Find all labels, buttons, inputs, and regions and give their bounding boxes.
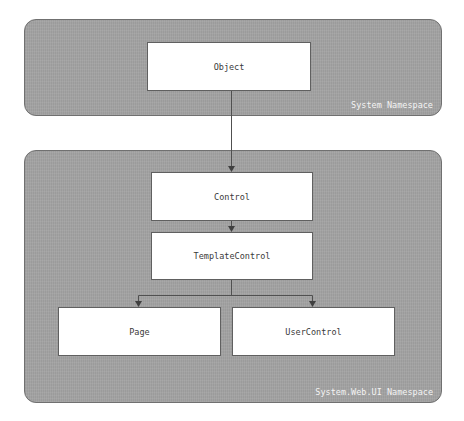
node-page: Page (58, 307, 221, 356)
node-template-control-label: TemplateControl (194, 251, 271, 261)
node-object: Object (147, 42, 311, 91)
node-control-label: Control (214, 192, 250, 202)
node-user-control-label: UserControl (285, 327, 341, 337)
node-page-label: Page (129, 327, 149, 337)
node-template-control: TemplateControl (151, 232, 313, 280)
node-control: Control (151, 172, 313, 221)
node-user-control: UserControl (232, 307, 395, 356)
node-object-label: Object (214, 62, 245, 72)
